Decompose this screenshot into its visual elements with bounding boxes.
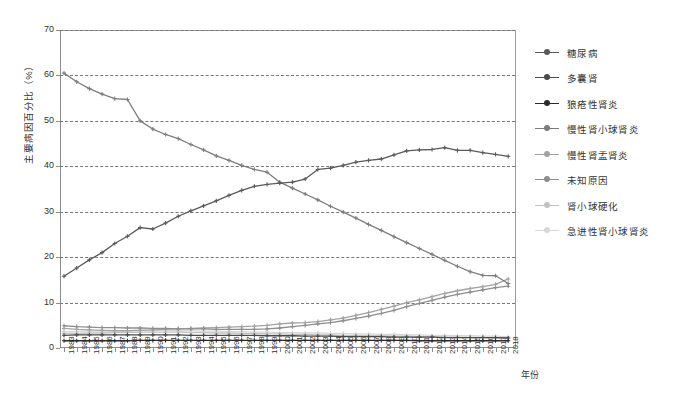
- legend-item-5[interactable]: 未知原因: [535, 168, 685, 194]
- legend-line-icon: [535, 73, 559, 83]
- y-axis-tick-label: 50: [20, 115, 54, 125]
- x-axis-tick-mark: [166, 348, 167, 352]
- x-axis-tick-label: 2018: [511, 336, 520, 354]
- x-axis-tick-mark: [153, 348, 154, 352]
- x-axis-tick-mark: [77, 348, 78, 352]
- x-axis-tick-label: 1993: [194, 336, 203, 354]
- x-axis-tick-label: 1988: [130, 336, 139, 354]
- x-axis-tick-label: 1986: [105, 336, 114, 354]
- x-axis-tick-mark: [102, 348, 103, 352]
- x-axis-tick-mark: [254, 348, 255, 352]
- legend-label: 未知原因: [567, 173, 608, 187]
- x-axis-tick-mark: [140, 348, 141, 352]
- x-axis-tick-label: 2010: [410, 336, 419, 354]
- legend-label: 多囊肾: [567, 71, 598, 85]
- x-axis-tick-label: 1987: [118, 336, 127, 354]
- gridline: [60, 121, 515, 122]
- x-axis-tick-label: 2002: [308, 336, 317, 354]
- x-axis-tick-label: 2008: [384, 336, 393, 354]
- x-axis-tick-mark: [381, 348, 382, 352]
- x-axis-tick-label: 1999: [270, 336, 279, 354]
- x-axis-tick-mark: [127, 348, 128, 352]
- x-axis-tick-label: 2000: [283, 336, 292, 354]
- x-axis-tick-mark: [457, 348, 458, 352]
- y-axis-title: 主要病因百分比（%）: [21, 22, 35, 202]
- x-axis-tick-label: 2006: [359, 336, 368, 354]
- x-axis-tick-mark: [292, 348, 293, 352]
- x-axis-tick-label: 2014: [460, 336, 469, 354]
- legend-line-icon: [535, 150, 559, 160]
- x-axis-tick-label: 2015: [473, 336, 482, 354]
- x-axis-tick-label: 1990: [156, 336, 165, 354]
- x-axis-tick-label: 2004: [334, 336, 343, 354]
- y-axis-tick-label: 40: [20, 160, 54, 170]
- x-axis-tick-label: 1983: [67, 336, 76, 354]
- chart-legend: 糖尿病多囊肾狼疮性肾炎慢性肾小球肾炎慢性肾盂肾炎未知原因肾小球硬化急进性肾小球肾…: [535, 40, 685, 244]
- x-axis-tick-label: 1996: [232, 336, 241, 354]
- legend-item-2[interactable]: 狼疮性肾炎: [535, 91, 685, 117]
- legend-item-1[interactable]: 多囊肾: [535, 66, 685, 92]
- legend-line-icon: [535, 226, 559, 236]
- x-axis-tick-mark: [280, 348, 281, 352]
- legend-label: 急进性肾小球肾炎: [567, 224, 649, 238]
- x-axis-tick-mark: [496, 348, 497, 352]
- x-axis-tick-mark: [407, 348, 408, 352]
- chart-container: 主要病因百分比（%） 010203040506070 1983198419851…: [0, 0, 690, 401]
- legend-item-0[interactable]: 糖尿病: [535, 40, 685, 66]
- legend-label: 肾小球硬化: [567, 199, 619, 213]
- legend-line-icon: [535, 99, 559, 109]
- x-axis-tick-label: 1985: [92, 336, 101, 354]
- x-axis-tick-mark: [89, 348, 90, 352]
- legend-line-icon: [535, 201, 559, 211]
- x-axis-tick-mark: [229, 348, 230, 352]
- legend-label: 狼疮性肾炎: [567, 97, 619, 111]
- x-axis-tick-mark: [242, 348, 243, 352]
- gridline: [60, 212, 515, 213]
- legend-item-3[interactable]: 慢性肾小球肾炎: [535, 117, 685, 143]
- x-axis-tick-label: 1997: [245, 336, 254, 354]
- x-axis-tick-label: 1989: [143, 336, 152, 354]
- x-axis-tick-mark: [204, 348, 205, 352]
- y-axis-tick-label: 0: [20, 342, 54, 352]
- x-axis-tick-mark: [191, 348, 192, 352]
- y-axis-tick-mark: [56, 121, 60, 122]
- x-axis-tick-mark: [445, 348, 446, 352]
- x-axis-tick-mark: [216, 348, 217, 352]
- legend-label: 慢性肾小球肾炎: [567, 122, 639, 136]
- y-axis-tick-label: 60: [20, 69, 54, 79]
- y-axis-tick-mark: [56, 75, 60, 76]
- legend-line-icon: [535, 48, 559, 58]
- x-axis-tick-label: 2005: [346, 336, 355, 354]
- y-axis-tick-label: 10: [20, 297, 54, 307]
- legend-item-7[interactable]: 急进性肾小球肾炎: [535, 219, 685, 245]
- plot-area: [60, 30, 515, 348]
- x-axis-tick-mark: [115, 348, 116, 352]
- y-axis-tick-label: 30: [20, 206, 54, 216]
- x-axis-title: 年份: [521, 368, 539, 381]
- legend-item-4[interactable]: 慢性肾盂肾炎: [535, 142, 685, 168]
- x-axis-tick-label: 2007: [372, 336, 381, 354]
- y-axis-tick-label: 70: [20, 24, 54, 34]
- y-axis-tick-label: 20: [20, 251, 54, 261]
- x-axis-tick-mark: [356, 348, 357, 352]
- x-axis-tick-label: 2003: [321, 336, 330, 354]
- x-axis-tick-label: 2011: [422, 337, 431, 354]
- legend-item-6[interactable]: 肾小球硬化: [535, 193, 685, 219]
- x-axis-tick-mark: [470, 348, 471, 352]
- y-axis-tick-mark: [56, 166, 60, 167]
- x-axis-tick-label: 1984: [80, 336, 89, 354]
- x-axis-tick-mark: [64, 348, 65, 352]
- x-axis-tick-label: 1992: [181, 336, 190, 354]
- x-axis-tick-label: 1998: [257, 336, 266, 354]
- x-axis-tick-mark: [508, 348, 509, 352]
- x-axis-tick-mark: [483, 348, 484, 352]
- x-axis-tick-mark: [267, 348, 268, 352]
- x-axis-tick-mark: [343, 348, 344, 352]
- x-axis-tick-mark: [432, 348, 433, 352]
- gridline: [60, 30, 515, 31]
- x-axis-tick-label: 1991: [169, 336, 178, 354]
- x-axis-tick-mark: [178, 348, 179, 352]
- x-axis-tick-label: 1995: [219, 336, 228, 354]
- legend-line-icon: [535, 124, 559, 134]
- x-axis-tick-label: 2001: [295, 336, 304, 354]
